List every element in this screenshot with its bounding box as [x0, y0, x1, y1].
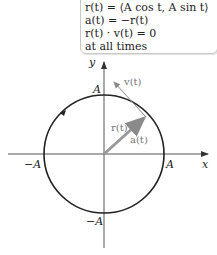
label-neg-a-left: −A	[24, 158, 41, 171]
y-axis-label: y	[88, 56, 96, 69]
x-axis-label: x	[202, 158, 209, 171]
label-a-top: A	[92, 83, 101, 96]
acceleration-label: a(t)	[130, 134, 148, 145]
velocity-label: v(t)	[123, 76, 142, 87]
velocity-vector	[114, 82, 146, 117]
circular-motion-diagram: y x A A −A −A v(t) r(t) a(t)	[0, 0, 217, 255]
position-label: r(t)	[111, 122, 128, 133]
label-neg-a-bottom: −A	[86, 215, 103, 228]
label-a-right: A	[165, 158, 174, 171]
